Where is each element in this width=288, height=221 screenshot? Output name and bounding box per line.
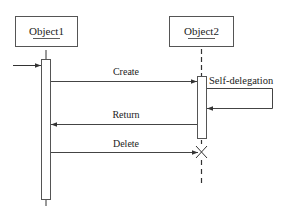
object1-label: Object1 <box>29 25 64 37</box>
object2-activation-bar <box>198 77 207 139</box>
message-delete: Delete <box>51 138 198 153</box>
return-label: Return <box>112 109 139 120</box>
message-return: Return <box>51 109 197 125</box>
delete-label: Delete <box>113 138 140 149</box>
message-self-delegation: Self-delegation <box>207 75 274 109</box>
object1: Object1 <box>16 17 78 207</box>
sequence-diagram: Object1 Object2 Create Self-delegation R… <box>0 0 288 221</box>
object1-activation-bar <box>42 60 51 200</box>
self-delegation-path <box>207 89 273 109</box>
object2-label: Object2 <box>184 25 219 37</box>
object2: Object2 <box>170 17 234 187</box>
self-delegation-label: Self-delegation <box>209 75 274 86</box>
message-create: Create <box>51 66 197 82</box>
create-label: Create <box>113 66 140 77</box>
